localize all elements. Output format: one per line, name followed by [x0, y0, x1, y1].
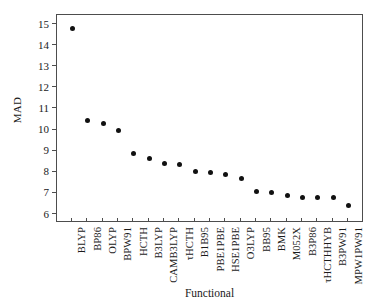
x-axis-title: Functional [56, 287, 363, 299]
x-tick-label: HCTH [138, 135, 149, 225]
y-tick-mark [52, 171, 56, 172]
x-tick-mark [255, 218, 256, 222]
x-tick-mark [316, 218, 317, 222]
x-tick-label: BB95 [261, 135, 272, 225]
y-tick-mark [52, 23, 56, 24]
data-point [85, 118, 90, 123]
x-tick-label: BPW91 [122, 135, 133, 225]
x-tick-label: OLYP [107, 135, 118, 225]
y-tick-label: 9 [44, 142, 50, 158]
y-tick-mark [52, 65, 56, 66]
x-tick-label: MPW1PW91 [353, 135, 364, 225]
y-tick-label: 14 [38, 37, 49, 53]
chart-figure: MAD 6789101112131415 BLYPBP86OLYPBPW91HC… [0, 0, 382, 308]
x-tick-label: HSE1PBE [230, 135, 241, 225]
x-tick-mark [240, 218, 241, 222]
x-tick-label: O3LYP [245, 135, 256, 225]
y-tick-label: 12 [38, 79, 49, 95]
x-tick-label: B3PW91 [337, 135, 348, 225]
x-tick-label: B3P86 [307, 135, 318, 225]
x-tick-mark [224, 218, 225, 222]
data-point [101, 121, 106, 126]
x-tick-mark [148, 218, 149, 222]
y-tick-label: 15 [38, 16, 49, 32]
x-tick-mark [163, 218, 164, 222]
x-tick-mark [270, 218, 271, 222]
y-tick-mark [52, 192, 56, 193]
y-tick-mark [52, 213, 56, 214]
x-tick-mark [71, 218, 72, 222]
y-tick-mark [52, 107, 56, 108]
x-tick-mark [86, 218, 87, 222]
y-tick-mark [52, 150, 56, 151]
x-tick-mark [286, 218, 287, 222]
x-tick-mark [102, 218, 103, 222]
x-tick-label: CAMB3LYP [168, 135, 179, 225]
x-tick-label: BMK [276, 135, 287, 225]
x-tick-label: PBE1PBE [215, 135, 226, 225]
y-tick-label: 7 [44, 184, 50, 200]
x-tick-mark [132, 218, 133, 222]
x-tick-label: B1B95 [199, 135, 210, 225]
x-tick-label: B3LYP [153, 135, 164, 225]
x-tick-label: τHCTH [184, 135, 195, 225]
x-tick-mark [347, 218, 348, 222]
data-point [116, 128, 121, 133]
y-axis-title: MAD [11, 75, 23, 145]
y-tick-mark [52, 44, 56, 45]
y-tick-mark [52, 86, 56, 87]
x-tick-label: M052X [291, 135, 302, 225]
data-point [70, 26, 75, 31]
x-tick-label: BLYP [76, 135, 87, 225]
x-tick-mark [301, 218, 302, 222]
x-tick-label: τHCTHHYB [322, 135, 333, 225]
y-tick-label: 10 [38, 121, 49, 137]
x-tick-mark [117, 218, 118, 222]
x-tick-mark [332, 218, 333, 222]
x-tick-mark [209, 218, 210, 222]
y-tick-mark [52, 129, 56, 130]
y-tick-label: 6 [44, 206, 50, 222]
x-tick-label: BP86 [92, 135, 103, 225]
y-tick-label: 13 [38, 58, 49, 74]
y-tick-label: 8 [44, 163, 50, 179]
x-tick-mark [178, 218, 179, 222]
y-tick-label: 11 [38, 100, 49, 116]
x-tick-mark [194, 218, 195, 222]
